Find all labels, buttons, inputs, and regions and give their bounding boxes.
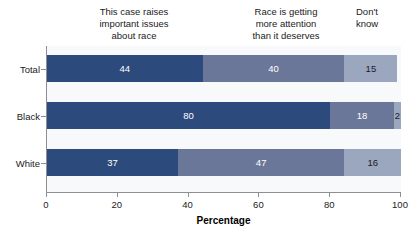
stacked-bar-chart-figure: · · · ·· · · This case raisesimportant i…: [0, 0, 414, 235]
column-header-too-much-attention: Race is gettingmore attentionthan it des…: [224, 6, 348, 41]
bar-segment: 16: [344, 149, 401, 176]
bar-segment: 47: [178, 149, 344, 176]
x-tick-mark: [258, 192, 259, 197]
bar-row-white: 374716: [47, 149, 401, 176]
bar-segment-value: 15: [366, 63, 377, 74]
x-tick-label: 100: [380, 199, 414, 210]
bar-segment: 40: [203, 55, 345, 82]
column-header-group: This case raisesimportant issuesabout ra…: [0, 6, 414, 48]
bar-segment: 2: [394, 102, 401, 129]
bar-segment: 44: [47, 55, 203, 82]
bar-segment: 15: [344, 55, 397, 82]
bar-row-total: 444015: [47, 55, 401, 82]
y-tick-label-white: White: [4, 158, 40, 169]
bar-segment-value: 40: [268, 63, 279, 74]
column-header-raises-issues: This case raisesimportant issuesabout ra…: [64, 6, 204, 41]
bar-segment-value: 37: [107, 157, 118, 168]
bar-segment-value: 18: [357, 110, 368, 121]
x-axis-line: [46, 192, 401, 193]
x-tick-label: 40: [168, 199, 208, 210]
bar-segment-value: 80: [183, 110, 194, 121]
bar-row-black: 80182: [47, 102, 401, 129]
x-tick-label: 20: [97, 199, 137, 210]
bar-segment: 37: [47, 149, 178, 176]
bar-segment-value: 47: [256, 157, 267, 168]
x-tick-mark: [188, 192, 189, 197]
x-tick-label: 60: [238, 199, 278, 210]
x-tick-label: 0: [26, 199, 66, 210]
bar-segment-value: 2: [395, 110, 400, 121]
x-tick-mark: [329, 192, 330, 197]
bar-segment-value: 16: [367, 157, 378, 168]
bar-segment-value: 44: [120, 63, 131, 74]
x-tick-mark: [46, 192, 47, 197]
x-axis-title: Percentage: [46, 215, 401, 226]
clipped-caption-fragment: · · · ·· · ·: [28, 0, 388, 2]
bar-segment: 80: [47, 102, 330, 129]
y-tick-label-total: Total: [4, 64, 40, 75]
column-header-dont-know: Don'tknow: [356, 6, 412, 30]
x-tick-mark: [117, 192, 118, 197]
bar-segment: 18: [330, 102, 394, 129]
plot-area: 444015 80182 374716: [46, 46, 401, 192]
x-tick-label: 80: [309, 199, 349, 210]
x-tick-mark: [400, 192, 401, 197]
y-tick-label-black: Black: [4, 111, 40, 122]
